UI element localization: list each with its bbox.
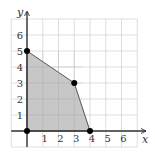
y-tick-label: 3	[17, 78, 23, 89]
y-tick-label: 5	[17, 46, 23, 57]
vertex-point	[24, 128, 30, 134]
y-tick-label: 6	[17, 30, 23, 41]
x-tick-label: 4	[89, 133, 95, 144]
x-tick-label: 5	[105, 133, 111, 144]
vertex-point	[71, 80, 77, 86]
x-tick-label: 6	[120, 133, 126, 144]
y-axis-label: y	[16, 6, 24, 19]
vertex-point	[87, 128, 93, 134]
x-tick-label: 3	[73, 133, 79, 144]
x-tick-label: 2	[57, 133, 63, 144]
x-tick-label: 1	[42, 133, 48, 144]
y-tick-label: 4	[17, 62, 23, 73]
vertex-point	[24, 48, 30, 54]
chart: 123456123456 x y	[0, 0, 155, 157]
y-tick-label: 2	[17, 94, 23, 105]
x-axis-label: x	[142, 133, 149, 146]
y-tick-label: 1	[17, 110, 23, 121]
